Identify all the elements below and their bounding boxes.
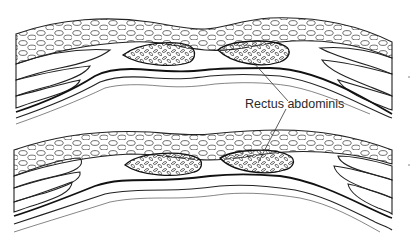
left-rectus-top: [123, 43, 195, 66]
right-rectus-bottom: [220, 150, 293, 172]
cross-section-drawing: [0, 0, 411, 242]
bottom-cross-section: [14, 130, 392, 232]
right-rectus-top: [218, 41, 289, 65]
rectus-abdominis-label: Rectus abdominis: [245, 97, 344, 111]
left-rectus-bottom: [125, 153, 201, 175]
anatomy-figure: Rectus abdominis: [0, 0, 411, 242]
